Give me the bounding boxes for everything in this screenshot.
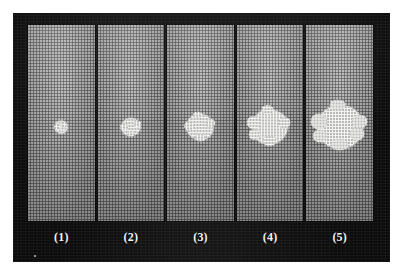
- panel-label-4: (4): [237, 227, 304, 251]
- particle-cluster-1: [55, 121, 67, 133]
- film-speck: [34, 255, 36, 257]
- cluster-lobe: [127, 130, 135, 136]
- cluster-lobe: [329, 99, 345, 110]
- cluster-lobe: [62, 122, 67, 127]
- cluster-lobe: [134, 120, 141, 127]
- panel-strip: [28, 25, 373, 221]
- cluster-lobe: [349, 127, 364, 140]
- panel-4[interactable]: [237, 25, 304, 221]
- cluster-lobe: [247, 116, 261, 129]
- cluster-lobe: [330, 138, 348, 150]
- cluster-lobe: [54, 124, 60, 130]
- cluster-lobe: [310, 113, 327, 129]
- cluster-lobe: [184, 121, 194, 130]
- particle-cluster-5: [317, 105, 362, 148]
- cluster-lobe: [279, 117, 291, 128]
- cluster-lobe: [193, 111, 202, 118]
- cluster-lobe: [262, 105, 274, 114]
- cluster-lobe: [195, 133, 206, 141]
- cluster-lobe: [312, 129, 327, 142]
- photograph-frame: (1) (2) (3) (4) (5): [13, 13, 390, 262]
- cluster-lobe: [263, 136, 277, 146]
- panel-label-1: (1): [28, 227, 95, 251]
- panel-5[interactable]: [306, 25, 373, 221]
- panel-label-5: (5): [306, 227, 373, 251]
- panel-label-3: (3): [167, 227, 234, 251]
- particle-cluster-3: [187, 114, 213, 139]
- cluster-lobe: [249, 129, 261, 140]
- cluster-lobe: [206, 118, 215, 127]
- cluster-lobe: [351, 114, 367, 128]
- panel-label-row: (1) (2) (3) (4) (5): [28, 227, 373, 251]
- figure-root: (1) (2) (3) (4) (5): [0, 0, 403, 277]
- cluster-lobe: [120, 123, 128, 130]
- panel-1[interactable]: [28, 25, 95, 221]
- panel-3[interactable]: [167, 25, 234, 221]
- panel-label-2: (2): [98, 227, 165, 251]
- panel-2[interactable]: [98, 25, 165, 221]
